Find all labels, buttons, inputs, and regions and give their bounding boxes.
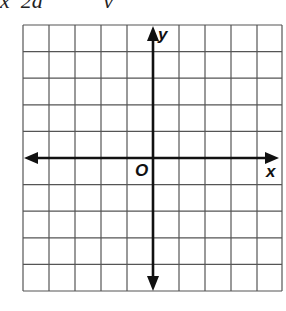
x-axis-label: x xyxy=(266,163,275,180)
y-axis-down-arrow-icon xyxy=(147,276,159,291)
coordinate-grid xyxy=(0,0,286,311)
origin-label: O xyxy=(135,162,148,179)
y-axis-label: y xyxy=(158,26,167,43)
x-axis-left-arrow-icon xyxy=(24,152,38,164)
